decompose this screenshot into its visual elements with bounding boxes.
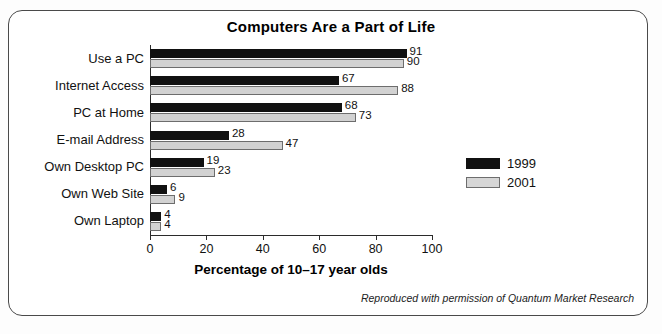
category-label-pc-at-home: PC at Home [73, 105, 144, 120]
x-tick-label-0: 0 [147, 242, 154, 256]
bar-1999-own-laptop [150, 212, 161, 221]
x-tick-80 [376, 235, 377, 240]
bar-1999-use-a-pc [150, 49, 407, 58]
category-label-e-mail-address: E-mail Address [57, 132, 144, 147]
bar-2001-pc-at-home [150, 113, 356, 122]
x-tick-20 [206, 235, 207, 240]
legend-item-2001: 2001 [466, 173, 536, 192]
bar-value-1999-pc-at-home: 68 [345, 99, 358, 111]
category-label-use-a-pc: Use a PC [88, 51, 144, 66]
x-tick-0 [150, 235, 151, 240]
chart-figure: Computers Are a Part of Life Use a PCInt… [0, 0, 662, 334]
x-tick-label-40: 40 [256, 242, 270, 256]
x-tick-label-80: 80 [369, 242, 383, 256]
bar-value-2001-own-desktop-pc: 23 [218, 164, 231, 176]
plot-area: 020406080100 919067886873284719236944 [150, 45, 432, 235]
legend-label-1999: 1999 [507, 156, 536, 171]
bar-2001-own-laptop [150, 222, 161, 231]
bar-value-1999-e-mail-address: 28 [232, 127, 245, 139]
x-tick-label-60: 60 [312, 242, 326, 256]
bar-1999-own-web-site [150, 185, 167, 194]
bar-2001-internet-access [150, 86, 398, 95]
chart-legend: 19992001 [466, 154, 536, 192]
x-tick-60 [319, 235, 320, 240]
legend-item-1999: 1999 [466, 154, 536, 173]
x-tick-100 [432, 235, 433, 240]
legend-swatch-2001 [466, 177, 500, 188]
category-label-own-laptop: Own Laptop [74, 213, 144, 228]
category-axis-labels: Use a PCInternet AccessPC at HomeE-mail … [20, 45, 144, 235]
bar-value-2001-own-laptop: 4 [164, 218, 170, 230]
x-tick-label-100: 100 [422, 242, 443, 256]
bar-value-2001-use-a-pc: 90 [407, 55, 420, 67]
bar-value-2001-e-mail-address: 47 [286, 137, 299, 149]
x-tick-label-20: 20 [199, 242, 213, 256]
bar-2001-own-desktop-pc [150, 168, 215, 177]
x-axis-title: Percentage of 10–17 year olds [150, 262, 432, 277]
chart-title: Computers Are a Part of Life [0, 18, 662, 35]
bar-1999-e-mail-address [150, 131, 229, 140]
bar-value-1999-internet-access: 67 [342, 72, 355, 84]
bar-2001-use-a-pc [150, 59, 404, 68]
legend-swatch-1999 [466, 158, 500, 169]
bar-1999-internet-access [150, 76, 339, 85]
category-label-internet-access: Internet Access [55, 78, 144, 93]
category-label-own-desktop-pc: Own Desktop PC [44, 159, 144, 174]
x-tick-40 [263, 235, 264, 240]
bar-value-1999-own-web-site: 6 [170, 181, 176, 193]
bar-2001-e-mail-address [150, 141, 283, 150]
bar-value-2001-internet-access: 88 [401, 82, 414, 94]
category-label-own-web-site: Own Web Site [61, 186, 144, 201]
legend-label-2001: 2001 [507, 175, 536, 190]
attribution-text: Reproduced with permission of Quantum Ma… [361, 292, 634, 304]
bar-value-2001-pc-at-home: 73 [359, 109, 372, 121]
bar-value-2001-own-web-site: 9 [178, 191, 184, 203]
bar-1999-own-desktop-pc [150, 158, 204, 167]
bar-2001-own-web-site [150, 195, 175, 204]
bar-1999-pc-at-home [150, 103, 342, 112]
x-axis-line [150, 235, 432, 236]
